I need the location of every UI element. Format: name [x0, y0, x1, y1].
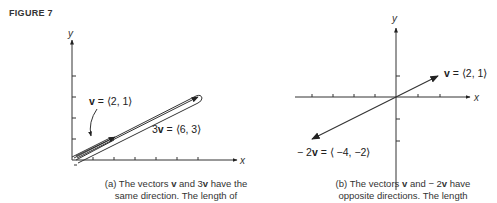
y-ticks [72, 76, 76, 139]
scaled-vector-label: 3v = ⟨6, 3⟩ [152, 123, 201, 135]
vector-neg-2v [312, 97, 396, 139]
v-label: v = ⟨2, 1⟩ [89, 95, 132, 107]
v-pointer-arrow [90, 109, 97, 136]
caption-a-line1: (a) The vectors v and 3v have the [96, 178, 256, 190]
vector-v [396, 76, 438, 97]
y-ticks [396, 76, 400, 141]
caption-b: (b) The vectors v and − 2v have opposite… [318, 178, 488, 202]
caption-a-line2: same direction. The length of [96, 190, 256, 202]
caption-b-line2: opposite directions. The length [318, 190, 488, 202]
panel-b: x y v = ⟨2, 1⟩ − 2v = ⟨ −4, −2⟩ [295, 13, 487, 190]
v-label: v = ⟨2, 1⟩ [444, 67, 487, 79]
panel-a: x y v = ⟨2, 1⟩ 3v = ⟨6, 3⟩ [67, 28, 246, 166]
figure-plots: x y v = ⟨2, 1⟩ 3v = ⟨6, 3⟩ [0, 0, 497, 203]
x-axis-label: x [473, 92, 480, 103]
caption-a: (a) The vectors v and 3v have the same d… [96, 178, 256, 202]
caption-b-line1: (b) The vectors v and − 2v have [318, 178, 488, 190]
scaled-vector-label: − 2v = ⟨ −4, −2⟩ [297, 146, 370, 158]
y-axis-label: y [391, 13, 398, 24]
x-axis-label: x [239, 155, 246, 166]
y-axis-label: y [67, 28, 74, 39]
